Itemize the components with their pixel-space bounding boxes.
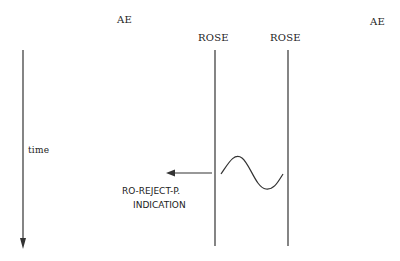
time-axis-label: time: [28, 145, 49, 155]
time-axis: [20, 50, 26, 249]
indication-arrow: [166, 170, 212, 177]
wavy-line-icon: [221, 156, 283, 189]
right-rose-label: ROSE: [270, 32, 301, 43]
primitive-label-line1: RO-REJECT-P.: [122, 186, 180, 196]
left-ae-label: AE: [117, 14, 132, 25]
time-arrowhead-icon: [20, 238, 26, 249]
primitive-label-line2: INDICATION: [133, 200, 186, 210]
left-rose-label: ROSE: [198, 32, 229, 43]
time-sequence-diagram: AE ROSE ROSE AE time RO-REJECT-P. INDICA…: [0, 0, 400, 261]
right-ae-label: AE: [370, 16, 385, 27]
left-arrowhead-icon: [166, 170, 175, 177]
